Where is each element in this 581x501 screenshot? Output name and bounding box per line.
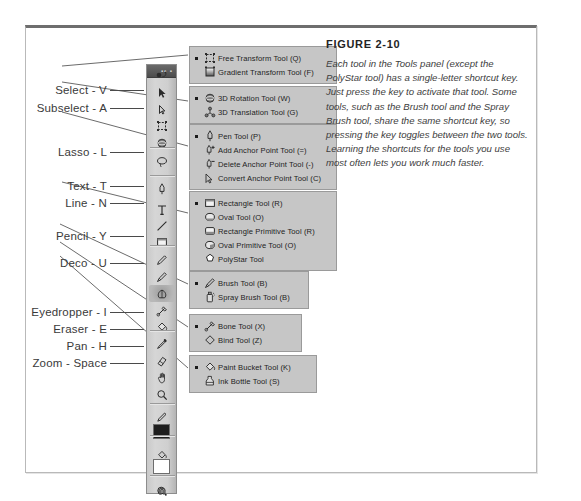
flyout-menu-item[interactable]: Pen Tool (P) — [195, 129, 329, 143]
callout-leader-rule — [110, 203, 144, 204]
stroke-color-tool[interactable] — [149, 408, 175, 425]
selected-marker-icon — [195, 325, 203, 328]
zoom-tool[interactable] — [149, 386, 175, 403]
black-and-white-swap[interactable] — [149, 65, 175, 82]
callout-leader-rule — [110, 186, 144, 187]
flyout-item-label: Paint Bucket Tool (K) — [216, 363, 291, 372]
callout-leader-rule — [110, 236, 144, 237]
callout-label: Lasso - L — [26, 146, 107, 158]
callout-label: Subselect - A — [26, 102, 107, 114]
brush-icon — [203, 277, 216, 289]
callout-label: Zoom - Space — [26, 357, 107, 369]
text-tool[interactable] — [149, 201, 175, 218]
callout-leader-rule — [110, 363, 144, 364]
flyout-menu-item[interactable]: Ink Bottle Tool (S) — [195, 374, 309, 388]
callout-leader-rule — [110, 263, 144, 264]
flyout-menu-item[interactable]: 3D Translation Tool (G) — [195, 105, 329, 119]
lasso-tool[interactable] — [149, 153, 175, 170]
gradient-transform-icon — [203, 66, 216, 78]
flyout-menu-item[interactable]: Oval Tool (O) — [195, 210, 329, 224]
flyout-item-label: Spray Brush Tool (B) — [216, 293, 290, 302]
flyout-menu-item[interactable]: Spray Brush Tool (B) — [195, 290, 301, 304]
flyout-item-label: PolyStar Tool — [216, 255, 264, 264]
3d-flyout[interactable]: 3D Rotation Tool (W)3D Translation Tool … — [189, 86, 337, 124]
rectangle-tool[interactable] — [149, 233, 175, 250]
deco-tool[interactable] — [149, 285, 175, 302]
callout-label: Select - V — [26, 84, 107, 96]
callout-leader-rule — [110, 312, 144, 313]
flyout-menu-item[interactable]: PolyStar Tool — [195, 252, 329, 266]
oval-primitive-icon — [203, 239, 216, 251]
bone-icon — [203, 320, 216, 332]
flyout-item-label: Ink Bottle Tool (S) — [216, 377, 280, 386]
paint-bucket-flyout[interactable]: Paint Bucket Tool (K)Ink Bottle Tool (S) — [189, 355, 317, 393]
figure-caption: FIGURE 2-10 Each tool in the Tools panel… — [326, 38, 531, 171]
pen-convert-icon — [203, 172, 216, 184]
flyout-item-label: Oval Tool (O) — [216, 213, 264, 222]
hand-tool[interactable] — [149, 369, 175, 386]
callout-leader-rule — [110, 346, 144, 347]
flyout-menu-item[interactable]: Add Anchor Point Tool (=) — [195, 143, 329, 157]
flyout-menu-item[interactable]: Paint Bucket Tool (K) — [195, 360, 309, 374]
flyout-menu-item[interactable]: Bind Tool (Z) — [195, 333, 294, 347]
flyout-menu-item[interactable]: Rectangle Tool (R) — [195, 196, 329, 210]
flyout-item-label: Brush Tool (B) — [216, 279, 267, 288]
rectangle-icon — [203, 197, 216, 209]
flyout-menu-item[interactable]: Brush Tool (B) — [195, 276, 301, 290]
bone-flyout[interactable]: Bone Tool (X)Bind Tool (Z) — [189, 314, 302, 352]
callout-leader-rule — [110, 152, 144, 153]
flyout-item-label: Bind Tool (Z) — [216, 336, 262, 345]
line-tool[interactable] — [149, 217, 175, 234]
transform-flyout[interactable]: Free Transform Tool (Q)Gradient Transfor… — [189, 46, 337, 84]
tools-panel[interactable]: ▪▪ ▪ — [146, 64, 177, 494]
polystar-icon — [203, 253, 216, 265]
flyout-menu-item[interactable]: Convert Anchor Point Tool (C) — [195, 171, 329, 185]
eraser-tool[interactable] — [149, 352, 175, 369]
subselection-tool[interactable] — [149, 101, 175, 118]
flyout-menu-item[interactable]: 3D Rotation Tool (W) — [195, 91, 329, 105]
brush-flyout[interactable]: Brush Tool (B)Spray Brush Tool (B) — [189, 271, 309, 309]
flyout-item-label: Gradient Transform Tool (F) — [216, 68, 314, 77]
flyout-menu-item[interactable]: Oval Primitive Tool (O) — [195, 238, 329, 252]
flyout-menu-item[interactable]: Rectangle Primitive Tool (R) — [195, 224, 329, 238]
flyout-item-label: 3D Rotation Tool (W) — [216, 94, 290, 103]
flyout-item-label: Add Anchor Point Tool (=) — [216, 146, 307, 155]
selected-marker-icon — [195, 366, 203, 369]
figure-frame: Select - VSubselect - ALasso - LText - T… — [25, 25, 537, 473]
flyout-item-label: Rectangle Primitive Tool (R) — [216, 227, 315, 236]
pencil-tool[interactable] — [149, 251, 175, 268]
callout-label: Eraser - E — [26, 323, 107, 335]
callout-label: Line - N — [26, 197, 107, 209]
pen-flyout[interactable]: Pen Tool (P)Add Anchor Point Tool (=)Del… — [189, 124, 337, 190]
flyout-menu-item[interactable]: Delete Anchor Point Tool (-) — [195, 157, 329, 171]
flyout-menu-item[interactable]: Free Transform Tool (Q) — [195, 51, 329, 65]
selected-marker-icon — [195, 202, 203, 205]
free-transform-tool[interactable] — [149, 117, 175, 134]
selected-marker-icon — [195, 135, 203, 138]
flyout-menu-item[interactable]: Bone Tool (X) — [195, 319, 294, 333]
pen-plus-icon — [203, 144, 216, 156]
paint-bucket-tool[interactable] — [149, 318, 175, 335]
fill-color-swatch-white[interactable] — [153, 459, 170, 474]
tool-group-divider — [150, 403, 175, 405]
shape-flyout[interactable]: Rectangle Tool (R)Oval Tool (O)Rectangle… — [189, 191, 337, 271]
callout-label: Deco - U — [26, 257, 107, 269]
tool-group-divider — [150, 175, 175, 177]
selection-tool[interactable] — [149, 84, 175, 101]
tool-group-divider — [150, 245, 175, 247]
spray-brush-icon — [203, 291, 216, 303]
tool-group-divider — [150, 330, 175, 332]
flyout-item-label: Free Transform Tool (Q) — [216, 54, 301, 63]
brush-tool[interactable] — [149, 268, 175, 285]
snap-to-objects-option[interactable] — [149, 482, 175, 499]
callout-leader-rule — [110, 329, 144, 330]
pen-tool[interactable] — [149, 180, 175, 197]
flyout-menu-item[interactable]: Gradient Transform Tool (F) — [195, 65, 329, 79]
flyout-item-label: Bone Tool (X) — [216, 322, 265, 331]
ink-bottle-icon — [203, 375, 216, 387]
flyout-item-label: Pen Tool (P) — [216, 132, 261, 141]
bone-tool[interactable] — [149, 302, 175, 319]
flyout-item-label: Oval Primitive Tool (O) — [216, 241, 296, 250]
flyout-item-label: Convert Anchor Point Tool (C) — [216, 174, 321, 183]
eyedropper-tool[interactable] — [149, 335, 175, 352]
